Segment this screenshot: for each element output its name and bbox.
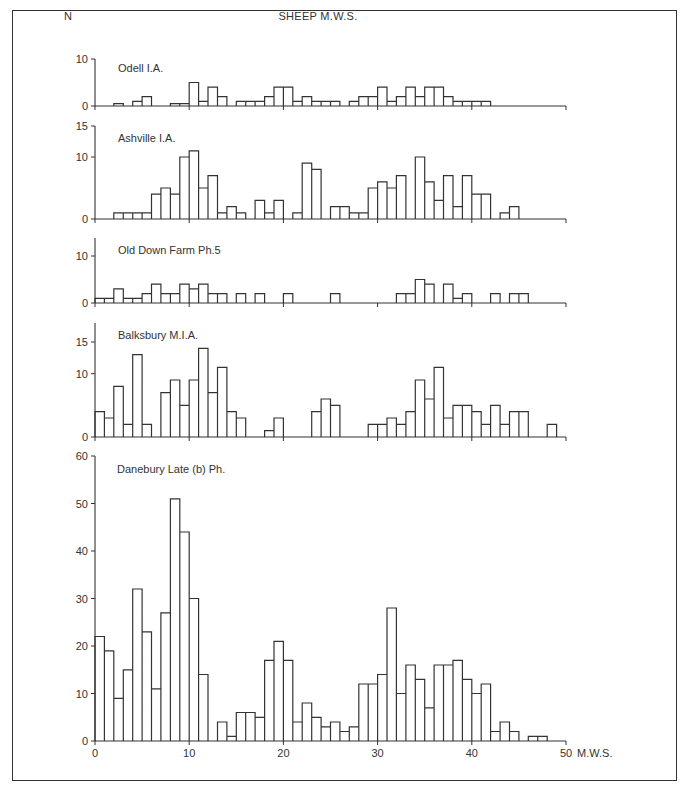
histogram-bars — [95, 499, 547, 741]
y-tick-label: 0 — [82, 100, 88, 112]
y-tick-label: 10 — [76, 368, 88, 380]
x-tick-label: 0 — [92, 747, 98, 759]
y-tick-label: 60 — [76, 450, 88, 462]
histogram-bars — [95, 348, 557, 437]
y-tick-label: 15 — [76, 336, 88, 348]
y-tick-label: 10 — [76, 53, 88, 65]
x-tick-label: 10 — [183, 747, 195, 759]
y-tick-label: 0 — [82, 735, 88, 747]
panel-ashville-i-a: 01015Ashville I.A. — [76, 120, 566, 225]
y-tick-label: 0 — [82, 431, 88, 443]
panel-old-down-farm-ph-5: 010Old Down Farm Ph.5 — [76, 238, 566, 309]
y-tick-label: 10 — [76, 151, 88, 163]
panel-odell-i-a: 010Odell I.A. — [76, 53, 566, 112]
y-tick-label: 40 — [76, 545, 88, 557]
panel-label: Balksbury M.I.A. — [118, 329, 198, 341]
histogram-bars — [95, 280, 528, 304]
y-tick-label: 10 — [76, 688, 88, 700]
y-tick-label: 50 — [76, 498, 88, 510]
panel-balksbury-m-i-a: 01015Balksbury M.I.A. — [76, 323, 566, 443]
sheep-mws-histograms: SHEEP M.W.S. N 010Odell I.A.01015Ashvill… — [0, 0, 681, 790]
y-tick-label: 20 — [76, 640, 88, 652]
chart-title: SHEEP M.W.S. — [278, 10, 357, 22]
panels: 010Odell I.A.01015Ashville I.A.010Old Do… — [76, 53, 572, 759]
y-tick-label: 15 — [76, 120, 88, 132]
x-tick-label: 30 — [371, 747, 383, 759]
x-tick-label: 40 — [466, 747, 478, 759]
y-tick-label: 0 — [82, 297, 88, 309]
histogram-bars — [114, 83, 491, 107]
x-tick-label: 50 — [560, 747, 572, 759]
panel-danebury-late-b-ph: 0102030405060Danebury Late (b) Ph.010203… — [76, 450, 572, 759]
panel-label: Ashville I.A. — [118, 132, 175, 144]
histogram-bars — [114, 151, 519, 219]
x-axis-label: M.W.S. — [577, 747, 612, 759]
panel-label: Old Down Farm Ph.5 — [118, 244, 221, 256]
y-axis-label: N — [64, 10, 72, 22]
panel-label: Danebury Late (b) Ph. — [117, 463, 225, 475]
y-tick-label: 10 — [76, 250, 88, 262]
panel-label: Odell I.A. — [118, 62, 163, 74]
y-tick-label: 0 — [82, 213, 88, 225]
y-tick-label: 30 — [76, 593, 88, 605]
x-tick-label: 20 — [277, 747, 289, 759]
